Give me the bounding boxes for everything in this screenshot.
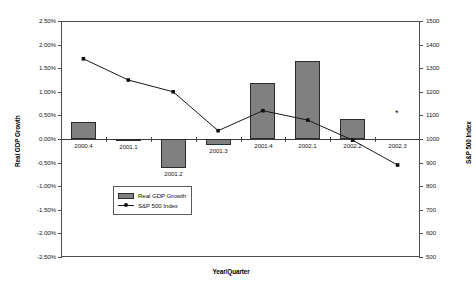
legend-label-gdp: Real GDP Growth xyxy=(138,192,186,199)
x-axis-category-label: 2000.4 xyxy=(61,142,106,149)
legend-item-bar: Real GDP Growth xyxy=(118,191,186,200)
line-point-icon xyxy=(118,202,134,209)
x-axis-category-label: 2001.2 xyxy=(151,170,196,177)
legend-item-line: S&P 500 Index xyxy=(118,201,186,210)
sp500-data-point xyxy=(171,90,175,94)
x-axis-category-label: 2001.1 xyxy=(106,143,151,150)
sp500-data-point xyxy=(306,118,310,122)
legend-label-sp500: S&P 500 Index xyxy=(138,202,178,209)
sp500-data-point xyxy=(261,109,265,113)
chart-legend: Real GDP Growth S&P 500 Index xyxy=(113,186,192,215)
chart-root: Real GDP Growth S&P 500 Index Year/Quart… xyxy=(0,0,476,285)
asterisk-annotation-marker: * xyxy=(395,109,399,118)
x-axis-category-label: 2001.3 xyxy=(196,147,241,154)
bar-swatch-icon xyxy=(118,193,134,199)
sp500-data-point xyxy=(82,57,86,61)
x-axis-category-label: 2002.3 xyxy=(375,142,420,149)
x-axis-category-label: 2002.1 xyxy=(285,142,330,149)
sp500-data-point xyxy=(127,78,131,82)
x-axis-category-label: 2001.4 xyxy=(241,142,286,149)
x-axis-category-label: 2002.2 xyxy=(330,142,375,149)
sp500-data-point xyxy=(216,129,220,133)
sp500-data-point xyxy=(396,163,400,167)
